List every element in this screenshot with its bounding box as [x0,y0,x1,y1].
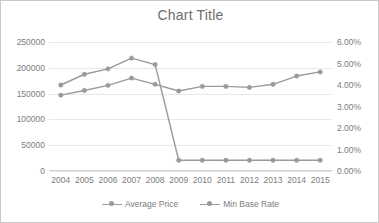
left-axis-tick: 100000 [1,114,45,124]
series-marker [106,83,110,87]
series-marker [177,158,181,162]
right-axis-tick: 1.00% [337,145,377,155]
right-axis-tick: 5.00% [337,59,377,69]
chart-container: Chart Title 0500001000001500002000002500… [0,0,379,223]
right-axis-tick: 4.00% [337,80,377,90]
right-axis-tick: 6.00% [337,37,377,47]
legend-entry[interactable]: Min Base Rate [200,199,279,209]
series-line [61,72,320,95]
right-axis-tick: 2.00% [337,123,377,133]
left-axis-tick: 250000 [1,37,45,47]
series-marker [82,72,86,76]
series-marker [271,82,275,86]
series-line [61,58,320,160]
x-axis-tick: 2012 [240,175,259,185]
left-axis-tick: 50000 [1,140,45,150]
legend-entry[interactable]: Average Price [102,199,178,209]
x-axis-tick: 2009 [169,175,188,185]
series-marker [247,85,251,89]
series-marker [200,158,204,162]
series-marker [153,62,157,66]
series-marker [294,158,298,162]
series-marker [224,84,228,88]
right-axis-tick: 3.00% [337,102,377,112]
series-marker [200,84,204,88]
series-marker [82,88,86,92]
gridline [49,171,332,172]
left-axis-tick: 200000 [1,63,45,73]
x-axis-tick: 2011 [217,175,235,185]
legend-label: Average Price [125,199,178,209]
series-marker [224,158,228,162]
series-marker [59,93,63,97]
x-axis-tick: 2010 [193,175,212,185]
series-marker [294,74,298,78]
series-marker [247,158,251,162]
series-marker [106,67,110,71]
x-axis-tick: 2005 [75,175,94,185]
series-marker [318,70,322,74]
legend-marker-icon [102,200,122,208]
legend-label: Min Base Rate [223,199,279,209]
x-axis-tick: 2007 [122,175,141,185]
series-marker [153,82,157,86]
x-axis-tick: 2006 [98,175,117,185]
series-marker [318,158,322,162]
left-axis-tick: 150000 [1,89,45,99]
x-axis-tick: 2014 [287,175,306,185]
x-axis-tick: 2015 [311,175,330,185]
series-marker [129,56,133,60]
series-marker [59,83,63,87]
left-axis-tick: 0 [1,166,45,176]
x-axis-tick: 2008 [146,175,165,185]
legend-marker-icon [200,200,220,208]
plot-area [49,42,332,171]
x-axis-tick: 2004 [51,175,70,185]
chart-legend: Average PriceMin Base Rate [1,199,379,209]
series-marker [271,158,275,162]
series-marker [177,89,181,93]
right-axis-tick: 0.00% [337,166,377,176]
series-layer [49,42,332,171]
chart-title: Chart Title [1,7,379,23]
x-axis-tick: 2013 [264,175,283,185]
series-marker [129,76,133,80]
